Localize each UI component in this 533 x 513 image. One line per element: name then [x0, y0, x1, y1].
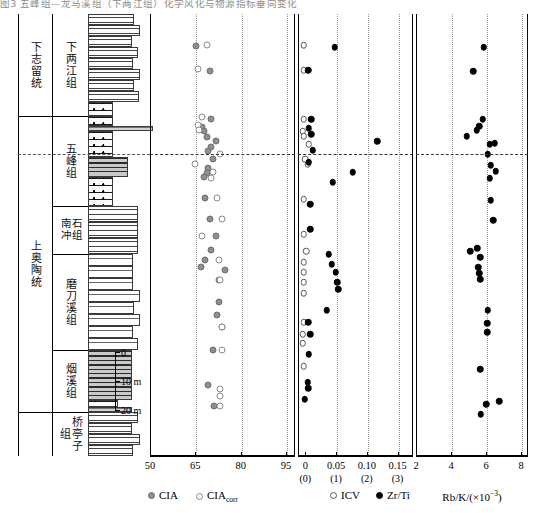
data-point-cia-corr[interactable]: [217, 393, 224, 400]
data-point-rb-k[interactable]: [486, 175, 493, 182]
data-point-cia[interactable]: [215, 299, 222, 306]
data-point-cia[interactable]: [206, 68, 213, 75]
data-point-cia[interactable]: [200, 174, 207, 181]
data-point-icv[interactable]: [301, 42, 308, 49]
data-point-rb-k[interactable]: [492, 140, 499, 147]
legend-item-zr-ti[interactable]: Zr/Ti: [376, 489, 410, 501]
data-point-zr-ti[interactable]: [309, 147, 316, 154]
data-point-zr-ti[interactable]: [305, 67, 312, 74]
data-point-icv[interactable]: [299, 340, 306, 347]
data-point-cia-corr[interactable]: [191, 161, 198, 168]
data-point-zr-ti[interactable]: [334, 279, 341, 286]
data-point-rb-k[interactable]: [487, 162, 494, 169]
data-point-zr-ti[interactable]: [308, 116, 315, 123]
data-point-icv[interactable]: [301, 196, 308, 203]
data-point-icv[interactable]: [301, 116, 308, 123]
data-point-rb-k[interactable]: [493, 168, 500, 175]
data-point-icv[interactable]: [301, 269, 308, 276]
data-point-cia-corr[interactable]: [199, 233, 206, 240]
data-point-cia[interactable]: [202, 195, 209, 202]
rbk-panel[interactable]: [416, 14, 528, 456]
data-point-icv[interactable]: [301, 259, 308, 266]
data-point-cia-corr[interactable]: [194, 66, 201, 73]
data-point-zr-ti[interactable]: [325, 251, 332, 258]
data-point-cia[interactable]: [209, 347, 216, 354]
data-point-cia[interactable]: [203, 134, 210, 141]
data-point-zr-ti[interactable]: [301, 396, 308, 403]
data-point-cia-corr[interactable]: [218, 216, 225, 223]
data-point-icv[interactable]: [301, 279, 308, 286]
data-point-cia[interactable]: [212, 233, 219, 240]
data-point-icv[interactable]: [301, 363, 308, 370]
data-point-rb-k[interactable]: [478, 411, 485, 418]
data-point-cia-corr[interactable]: [217, 277, 224, 284]
data-point-rb-k[interactable]: [496, 398, 503, 405]
data-point-zr-ti[interactable]: [323, 307, 330, 314]
data-point-cia-corr[interactable]: [217, 386, 224, 393]
data-point-rb-k[interactable]: [484, 320, 491, 327]
data-point-cia-corr[interactable]: [215, 257, 222, 264]
data-point-zr-ti[interactable]: [335, 286, 342, 293]
data-point-cia[interactable]: [205, 382, 212, 389]
data-point-rb-k[interactable]: [477, 276, 484, 283]
data-point-rb-k[interactable]: [474, 245, 481, 252]
data-point-cia[interactable]: [222, 267, 229, 274]
cia-panel[interactable]: [150, 14, 295, 456]
data-point-rb-k[interactable]: [483, 401, 490, 408]
data-point-rb-k[interactable]: [490, 217, 497, 224]
data-point-zr-ti[interactable]: [333, 269, 340, 276]
data-point-icv[interactable]: [303, 248, 310, 255]
data-point-cia-corr[interactable]: [196, 127, 203, 134]
data-point-rb-k[interactable]: [485, 307, 492, 314]
data-point-cia-corr[interactable]: [208, 175, 215, 182]
scale-bar: 0 10 m 20 m: [115, 352, 143, 410]
data-point-cia[interactable]: [197, 264, 204, 271]
bed-lithology: [88, 222, 138, 238]
data-point-rb-k[interactable]: [470, 68, 477, 75]
data-point-cia[interactable]: [208, 116, 215, 123]
data-point-rb-k[interactable]: [480, 44, 487, 51]
data-point-cia[interactable]: [209, 156, 216, 163]
data-point-cia-corr[interactable]: [217, 403, 224, 410]
data-point-rb-k[interactable]: [487, 197, 494, 204]
data-point-icv[interactable]: [299, 331, 306, 338]
legend-item-cia[interactable]: CIAcorr: [196, 489, 238, 504]
data-point-zr-ti[interactable]: [331, 44, 338, 51]
data-point-zr-ti[interactable]: [306, 159, 313, 166]
bed-lithology: [88, 278, 133, 290]
data-point-zr-ti[interactable]: [328, 261, 335, 268]
data-point-rb-k[interactable]: [473, 127, 480, 134]
legend-item-cia[interactable]: CIA: [148, 489, 178, 501]
data-point-icv[interactable]: [301, 133, 308, 140]
data-point-zr-ti[interactable]: [305, 385, 312, 392]
legend-item-icv[interactable]: ICV: [330, 489, 360, 501]
data-point-rb-k[interactable]: [464, 133, 471, 140]
data-point-zr-ti[interactable]: [305, 319, 312, 326]
data-point-cia[interactable]: [214, 312, 221, 319]
data-point-zr-ti[interactable]: [349, 169, 356, 176]
data-point-rb-k[interactable]: [479, 116, 486, 123]
data-point-zr-ti[interactable]: [307, 331, 314, 338]
data-point-cia-corr[interactable]: [218, 324, 225, 331]
data-point-zr-ti[interactable]: [330, 179, 337, 186]
data-point-cia-corr[interactable]: [199, 114, 206, 121]
data-point-zr-ti[interactable]: [374, 138, 381, 145]
data-point-zr-ti[interactable]: [307, 201, 314, 208]
data-point-cia-corr[interactable]: [203, 42, 210, 49]
data-point-zr-ti[interactable]: [308, 131, 315, 138]
data-point-rb-k[interactable]: [477, 254, 484, 261]
data-point-zr-ti[interactable]: [307, 226, 314, 233]
data-point-cia[interactable]: [208, 247, 215, 254]
data-point-cia[interactable]: [193, 43, 200, 50]
data-point-rb-k[interactable]: [467, 248, 474, 255]
data-point-icv[interactable]: [301, 290, 308, 297]
data-point-cia[interactable]: [202, 257, 209, 264]
data-point-icv[interactable]: [301, 231, 308, 238]
icv-zrti-panel[interactable]: [298, 14, 413, 456]
data-point-rb-k[interactable]: [477, 366, 484, 373]
data-point-cia-corr[interactable]: [214, 195, 221, 202]
data-point-cia[interactable]: [206, 216, 213, 223]
data-point-rb-k[interactable]: [484, 329, 491, 336]
data-point-cia-corr[interactable]: [218, 347, 225, 354]
data-point-zr-ti[interactable]: [306, 351, 313, 358]
